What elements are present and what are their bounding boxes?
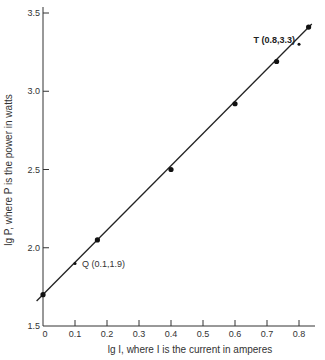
y-tick-label: 2.5 — [27, 165, 40, 175]
x-tick-label: 0 — [42, 329, 47, 339]
x-tick-label: 0.7 — [261, 329, 274, 339]
y-tick-label: 1.5 — [27, 321, 40, 331]
x-tick-label: 0.2 — [101, 329, 114, 339]
point-q — [74, 262, 77, 265]
y-tick-label: 3.5 — [27, 8, 40, 18]
data-point — [306, 24, 311, 29]
label-q: Q (0.1,1.9) — [82, 259, 125, 269]
x-tick-label: 0.6 — [229, 329, 242, 339]
x-tick-label: 0.5 — [197, 329, 210, 339]
ticks: 00.10.20.30.40.50.60.70.81.52.02.53.03.5 — [27, 8, 305, 339]
y-tick-label: 3.0 — [27, 86, 40, 96]
data-point — [168, 167, 173, 172]
x-axis-title: lg I, where I is the current in amperes — [108, 344, 273, 355]
x-tick-label: 0.3 — [133, 329, 146, 339]
point-t — [298, 43, 301, 46]
data-point — [232, 101, 237, 106]
axes — [43, 7, 315, 326]
x-tick-label: 0.1 — [69, 329, 82, 339]
x-tick-label: 0.8 — [293, 329, 306, 339]
y-axis-title: lg P, where P is the power in watts — [3, 94, 14, 245]
y-tick-label: 2.0 — [27, 243, 40, 253]
data-point — [95, 237, 100, 242]
data-point — [40, 292, 45, 297]
x-tick-label: 0.4 — [165, 329, 178, 339]
label-t: T (0.8,3.3) — [253, 35, 295, 45]
data-point — [274, 59, 279, 64]
chart: 00.10.20.30.40.50.60.70.81.52.02.53.03.5… — [0, 0, 325, 360]
fit-line — [37, 24, 312, 301]
